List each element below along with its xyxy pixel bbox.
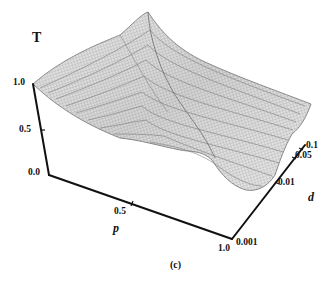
d-tick-label-005: 0.05 xyxy=(295,151,312,161)
d-tick-label-001: 0.01 xyxy=(278,178,295,188)
p-axis-line xyxy=(49,175,232,239)
surface-mesh xyxy=(33,12,311,190)
surface-plot xyxy=(0,0,332,282)
d-axis-label: d xyxy=(308,191,314,203)
d-tick-label-0001: 0.001 xyxy=(236,238,257,248)
z-tick-label-0: 0.0 xyxy=(28,168,40,178)
z-tick-label-1: 1.0 xyxy=(13,78,25,88)
figure-caption: (c) xyxy=(170,260,181,270)
p-tick-label-1: 1.0 xyxy=(218,244,230,254)
z-tick-label-05: 0.5 xyxy=(19,125,31,135)
z-axis-label: T xyxy=(32,31,41,45)
d-tick-label-01: 0.1 xyxy=(306,141,318,151)
p-axis-label: p xyxy=(113,222,119,234)
p-tick-label-05: 0.5 xyxy=(114,207,126,217)
